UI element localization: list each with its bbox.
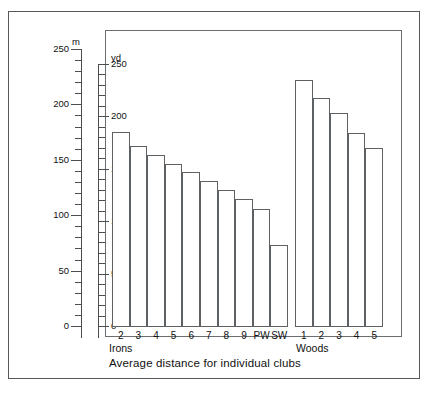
wood-bar-2	[313, 98, 331, 326]
iron-xlabel-2: 2	[112, 331, 130, 341]
iron-xlabel-3: 3	[130, 331, 148, 341]
wood-xlabel-5: 5	[365, 331, 383, 341]
iron-xlabel-7: 7	[200, 331, 218, 341]
iron-xlabel-9: 9	[235, 331, 253, 341]
iron-bar-sw	[270, 245, 288, 326]
wood-bar-3	[330, 113, 348, 326]
wood-xlabel-2: 2	[313, 331, 331, 341]
wood-xlabel-3: 3	[330, 331, 348, 341]
wood-xlabel-4: 4	[348, 331, 366, 341]
wood-bar-4	[348, 133, 366, 326]
iron-baseline	[112, 326, 288, 327]
iron-bar-pw	[253, 209, 271, 326]
iron-bar-8	[218, 190, 236, 326]
wood-bar-1	[295, 80, 313, 326]
iron-xlabel-6: 6	[182, 331, 200, 341]
wood-xlabel-1: 1	[295, 331, 313, 341]
iron-bar-6	[182, 172, 200, 326]
iron-xlabel-pw: PW	[253, 331, 271, 341]
chart-caption: Average distance for individual clubs	[109, 357, 301, 369]
wood-bar-5	[365, 148, 383, 326]
iron-bar-7	[200, 181, 218, 326]
iron-bar-2	[112, 132, 130, 326]
iron-xlabel-5: 5	[165, 331, 183, 341]
iron-bar-4	[147, 155, 165, 326]
iron-xlabel-4: 4	[147, 331, 165, 341]
iron-bar-5	[165, 164, 183, 326]
bar-series: 23456789PWSW12345	[9, 12, 421, 380]
figure-frame: m yd 050100150200250050100150200250 2345…	[8, 11, 420, 379]
iron-bar-9	[235, 199, 253, 326]
iron-bar-3	[130, 146, 148, 326]
iron-xlabel-sw: SW	[270, 331, 288, 341]
iron-xlabel-8: 8	[218, 331, 236, 341]
wood-baseline	[295, 326, 383, 327]
group-label-irons: Irons	[109, 342, 132, 354]
group-label-woods: Woods	[296, 342, 329, 354]
